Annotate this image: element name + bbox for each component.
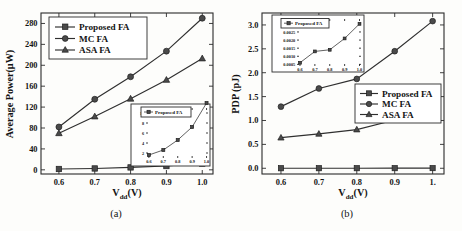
x-tick-label: 0.9 bbox=[342, 67, 347, 72]
x-tick-label: 0.8 bbox=[327, 67, 332, 72]
x-tick-label: 1.0 bbox=[204, 159, 209, 164]
x-axis-title-b: Vdd(V) bbox=[338, 187, 367, 201]
legend-label-mc-a: MC FA bbox=[79, 34, 109, 44]
inset-legend-label-b: Proposed FA bbox=[295, 21, 323, 26]
inset-legend-marker-b bbox=[287, 22, 290, 25]
x-tick-label: 0.6 bbox=[146, 159, 152, 164]
x-tick-label: 0.7 bbox=[90, 178, 100, 187]
x-tick-label: 0.6 bbox=[297, 67, 303, 72]
y-axis-title-b: PDP (pJ) bbox=[231, 74, 242, 113]
y-tick-label: 0.0010 bbox=[283, 54, 295, 59]
x-tick-label: 0.8 bbox=[125, 178, 135, 187]
y-tick-label: 0 bbox=[33, 166, 37, 175]
caption-b: (b) bbox=[341, 208, 354, 220]
y-tick-label: 80 bbox=[29, 124, 37, 133]
y-tick-label: 0.0015 bbox=[283, 46, 295, 51]
x-tick-label: 0.7 bbox=[161, 159, 167, 164]
x-tick-label: 0.6 bbox=[54, 178, 64, 187]
y-axis-title-a: Average Power(μW) bbox=[4, 50, 16, 138]
figure-container: 0.60.70.80.91.004080120160200240280 0.60… bbox=[0, 0, 462, 231]
x-tick-label: 1.0 bbox=[197, 178, 207, 187]
y-tick-label: 40 bbox=[29, 145, 37, 154]
legend-a[interactable]: Proposed FA MC FA ASA FA bbox=[49, 17, 147, 59]
panel-a: 0.60.70.80.91.004080120160200240280 0.60… bbox=[0, 0, 231, 231]
x-tick-label: 0.6 bbox=[276, 178, 286, 187]
y-tick-label: 1.5 bbox=[248, 93, 258, 102]
legend-label-proposed-a: Proposed FA bbox=[79, 22, 130, 32]
y-tick-label: 280 bbox=[25, 19, 38, 28]
x-axis-title-a: Vdd(V) bbox=[112, 187, 141, 201]
x-tick-label: 1.0 bbox=[357, 67, 362, 72]
y-tick-label: 3.0 bbox=[248, 21, 258, 30]
x-tick-label: 0.8 bbox=[175, 159, 180, 164]
x-tick-label: 0.9 bbox=[161, 178, 171, 187]
y-tick-label: 200 bbox=[25, 61, 38, 70]
y-tick-label: 1.0 bbox=[248, 116, 258, 125]
y-tick-label: 240 bbox=[25, 40, 38, 49]
chart-b: 0.60.70.80.91.0.00.51.01.52.02.53.0 0.60… bbox=[231, 0, 462, 231]
legend-marker-square-b bbox=[366, 91, 371, 96]
panel-b: 0.60.70.80.91.0.00.51.01.52.02.53.0 0.60… bbox=[231, 0, 462, 231]
legend-label-mc-b: MC FA bbox=[382, 99, 412, 109]
legend-marker-circle-b bbox=[366, 101, 371, 106]
caption-a: (a) bbox=[110, 208, 122, 220]
y-tick-label: 2.5 bbox=[248, 45, 258, 54]
legend-label-proposed-b: Proposed FA bbox=[382, 89, 433, 99]
x-tick-label: 1. bbox=[429, 178, 435, 187]
y-tick-label: 0.5 bbox=[248, 140, 258, 149]
legend-label-asa-a: ASA FA bbox=[79, 45, 111, 55]
inset-b: 0.60.70.80.91.00.00050.00100.00150.00200… bbox=[272, 15, 364, 72]
inset-legend-label-a: Proposed FA bbox=[155, 110, 183, 115]
y-tick-label: 0.0 bbox=[248, 164, 258, 173]
legend-b[interactable]: Proposed FA MC FA ASA FA bbox=[355, 84, 441, 123]
legend-label-asa-b: ASA FA bbox=[382, 110, 414, 120]
x-tick-label: 0.9 bbox=[189, 159, 194, 164]
y-tick-label: 120 bbox=[25, 103, 38, 112]
y-tick-label: 0.0020 bbox=[283, 38, 295, 43]
x-tick-label: 0.7 bbox=[312, 67, 318, 72]
x-tick-label: 0.8 bbox=[352, 178, 362, 187]
y-tick-label: 160 bbox=[25, 82, 38, 91]
y-tick-label: 8 bbox=[142, 121, 144, 126]
inset-a: 0.60.70.80.91.0246810 Proposed FA bbox=[131, 102, 210, 167]
y-tick-label: 2.0 bbox=[248, 69, 258, 78]
axis-titles-a: Vdd(V) Average Power(μW) bbox=[4, 50, 142, 201]
legend-marker-circle-a bbox=[62, 36, 68, 42]
inset-legend-marker-a bbox=[147, 110, 150, 113]
chart-a: 0.60.70.80.91.004080120160200240280 0.60… bbox=[0, 0, 231, 231]
y-tick-label: 0.0005 bbox=[283, 62, 295, 67]
legend-marker-square-a bbox=[63, 24, 68, 29]
x-tick-label: 0.9 bbox=[389, 178, 399, 187]
x-tick-label: 0.7 bbox=[314, 178, 324, 187]
y-tick-label: 2 bbox=[142, 151, 144, 156]
y-tick-label: 0.0025 bbox=[283, 30, 295, 35]
